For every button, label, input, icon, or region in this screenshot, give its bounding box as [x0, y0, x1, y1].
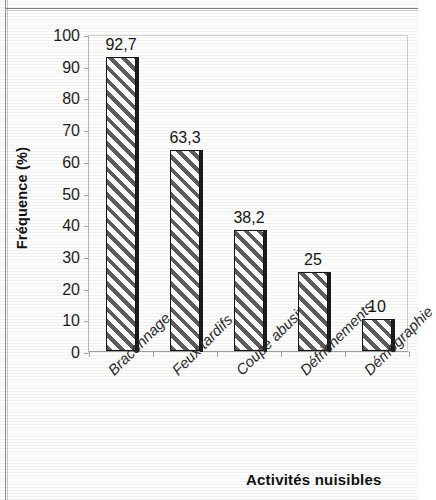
y-axis-tick-mark — [84, 290, 89, 291]
x-axis-title: Activités nuisibles — [246, 471, 382, 488]
y-axis-tick-mark — [84, 99, 89, 100]
y-axis-tick-label: 80 — [34, 91, 89, 107]
y-axis-title: Fréquence (%) — [14, 118, 30, 278]
y-axis-tick-label: 20 — [34, 282, 89, 298]
bar — [106, 57, 136, 351]
bar-value-label: 63,3 — [155, 130, 215, 146]
y-axis-tick-mark — [84, 131, 89, 132]
x-axis-tick-mark — [281, 351, 282, 357]
y-axis-tick-mark — [84, 258, 89, 259]
x-axis-tick-mark — [153, 351, 154, 357]
y-axis-tick-label: 40 — [34, 218, 89, 234]
bar — [234, 230, 264, 351]
x-axis-tick-mark — [345, 351, 346, 357]
bar-value-label: 10 — [347, 299, 407, 315]
y-axis-tick-mark — [84, 226, 89, 227]
bar-value-label: 25 — [283, 252, 343, 268]
y-axis-tick-label: 0 — [34, 345, 89, 361]
y-axis-tick-mark — [84, 36, 89, 37]
bar — [170, 150, 200, 351]
y-axis-tick-mark — [84, 68, 89, 69]
y-axis-tick-label: 10 — [34, 313, 89, 329]
x-axis-tick-mark — [89, 351, 90, 357]
y-axis-tick-mark — [84, 195, 89, 196]
y-axis-tick-label: 50 — [34, 187, 89, 203]
y-axis-tick-label: 60 — [34, 155, 89, 171]
y-axis-tick-mark — [84, 321, 89, 322]
y-axis-tick-label: 90 — [34, 60, 89, 76]
x-axis-tick-mark — [217, 351, 218, 357]
bar-value-label: 38,2 — [219, 210, 279, 226]
bar-value-label: 92,7 — [91, 37, 151, 53]
y-axis-tick-mark — [84, 163, 89, 164]
plot-area: 010203040506070809010092,7Braconnage63,3… — [88, 35, 408, 352]
y-axis-tick-label: 100 — [34, 28, 89, 44]
y-axis-tick-label: 70 — [34, 123, 89, 139]
y-axis-tick-label: 30 — [34, 250, 89, 266]
x-axis-tick-mark — [409, 351, 410, 357]
